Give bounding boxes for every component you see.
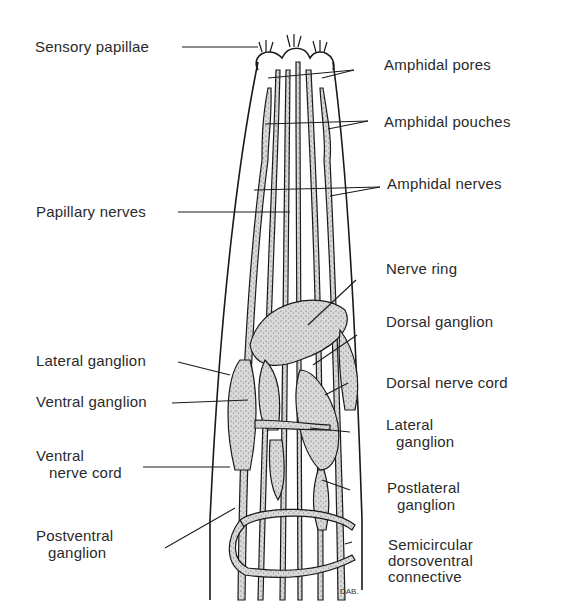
artist-signature: DAB.: [340, 587, 359, 596]
label-lateral-ganglion-right: Lateral ganglion: [386, 416, 454, 450]
label-line: ganglion: [36, 544, 113, 561]
label-semicircular-dorsoventral-connective: Semicircular dorsoventral connective: [388, 537, 473, 585]
label-papillary-nerves: Papillary nerves: [36, 203, 146, 220]
label-amphidal-pores: Amphidal pores: [384, 56, 491, 73]
label-line: Postventral: [36, 527, 113, 544]
label-dorsal-nerve-cord: Dorsal nerve cord: [386, 374, 508, 391]
label-line: nerve cord: [36, 464, 122, 481]
head-lobes: [256, 48, 334, 70]
label-line: Lateral: [386, 416, 454, 433]
label-line: Ventral: [36, 447, 122, 464]
label-postlateral-ganglion: Postlateral ganglion: [387, 479, 460, 513]
label-dorsal-ganglion: Dorsal ganglion: [386, 313, 493, 330]
label-line: ganglion: [386, 433, 454, 450]
nematode-nervous-system-illustration: DAB.: [0, 0, 571, 615]
postlateral-ganglion: [314, 470, 329, 530]
label-postventral-ganglion: Postventral ganglion: [36, 527, 113, 561]
label-amphidal-pouches: Amphidal pouches: [384, 113, 511, 130]
label-line: Postlateral: [387, 479, 460, 496]
label-nerve-ring: Nerve ring: [386, 260, 457, 277]
label-line: connective: [388, 569, 473, 585]
label-lateral-ganglion-left: Lateral ganglion: [36, 352, 146, 369]
label-ventral-nerve-cord: Ventral nerve cord: [36, 447, 122, 481]
lateral-ganglion-left: [228, 360, 256, 470]
label-line: dorsoventral: [388, 553, 473, 569]
ventral-ganglion: [259, 360, 280, 430]
label-line: ganglion: [387, 496, 460, 513]
lateral-ganglion-right: [296, 370, 339, 470]
label-sensory-papillae: Sensory papillae: [35, 38, 149, 55]
label-ventral-ganglion: Ventral ganglion: [36, 393, 147, 410]
label-amphidal-nerves: Amphidal nerves: [387, 175, 502, 192]
label-line: Semicircular: [388, 537, 473, 553]
